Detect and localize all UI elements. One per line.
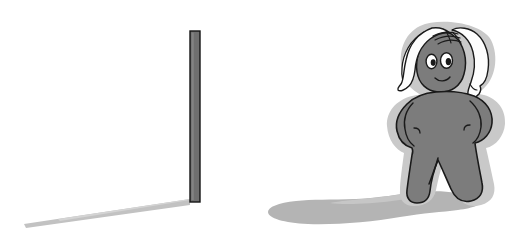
cartoon-character — [387, 22, 505, 206]
vertical-post — [190, 31, 200, 202]
illustration-canvas: Shadow scene illustration A grey cartoon… — [0, 0, 515, 240]
shadow-scene-svg: Shadow scene illustration A grey cartoon… — [0, 0, 515, 240]
pupil-left — [431, 59, 436, 66]
pupil-right — [446, 58, 451, 65]
